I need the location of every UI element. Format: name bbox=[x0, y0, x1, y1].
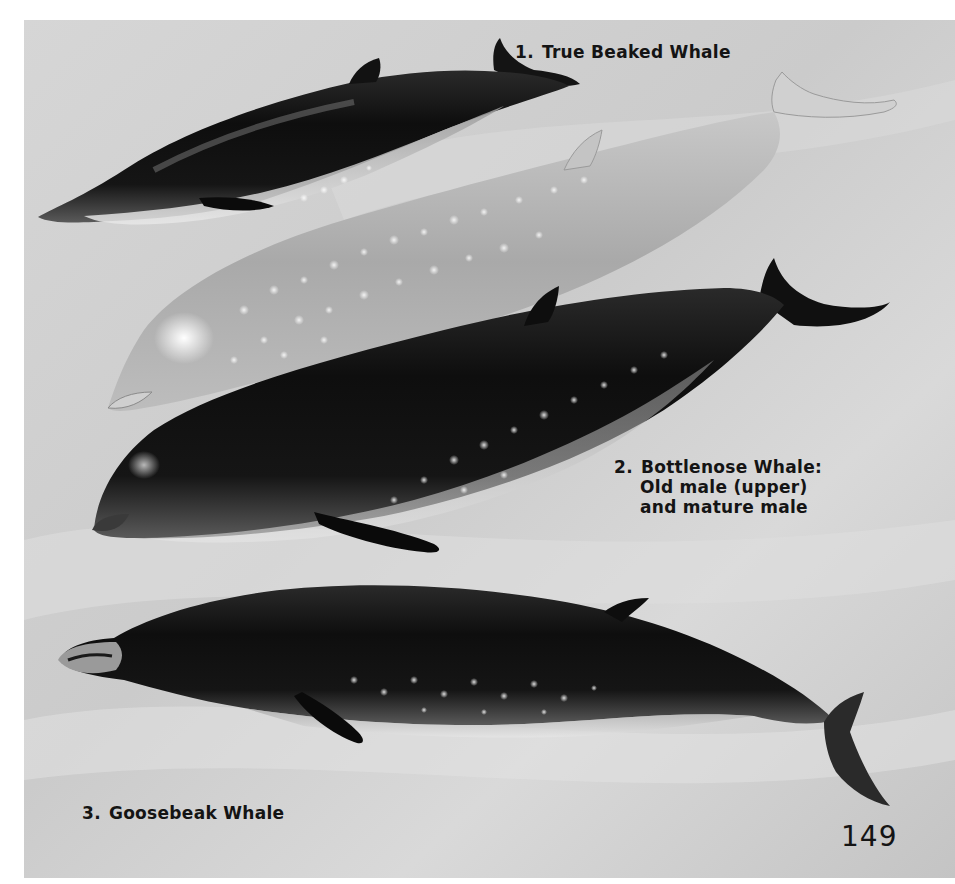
illustration-plate: 1.True Beaked Whale 2.Bottlenose Whale: … bbox=[24, 20, 955, 878]
caption-label: Goosebeak Whale bbox=[109, 803, 285, 823]
caption-number: 2. bbox=[614, 457, 633, 477]
caption-label-line-1: Bottlenose Whale: bbox=[641, 457, 822, 477]
caption-label-line-2: Old male (upper) bbox=[614, 477, 822, 497]
whale-illustration bbox=[24, 20, 955, 878]
caption-label: True Beaked Whale bbox=[542, 42, 731, 62]
caption-true-beaked-whale: 1.True Beaked Whale bbox=[515, 42, 731, 62]
caption-goosebeak-whale: 3.Goosebeak Whale bbox=[82, 803, 284, 823]
caption-number: 1. bbox=[515, 42, 534, 62]
caption-label-line-3: and mature male bbox=[614, 497, 822, 517]
caption-number: 3. bbox=[82, 803, 101, 823]
page-number: 149 bbox=[841, 820, 897, 853]
caption-bottlenose-whale: 2.Bottlenose Whale: Old male (upper) and… bbox=[614, 457, 822, 517]
